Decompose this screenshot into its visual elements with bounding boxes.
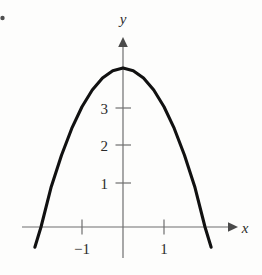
y-tick-label-2: 2 [101, 138, 109, 154]
y-axis-arrow-icon [118, 37, 128, 47]
figure-container: 3 2 1 −1 1 y x [0, 0, 262, 275]
x-axis-label: x [241, 220, 249, 236]
page-margin-dot [0, 16, 4, 20]
parabola-graph: 3 2 1 −1 1 y x [0, 0, 262, 275]
x-axis-arrow-icon [228, 222, 238, 232]
x-tick-label-1: 1 [160, 241, 168, 257]
x-tick-label-minus-1: −1 [74, 241, 90, 257]
y-axis-label: y [118, 11, 127, 27]
y-tick-label-3: 3 [101, 101, 109, 117]
y-tick-label-1: 1 [101, 176, 109, 192]
